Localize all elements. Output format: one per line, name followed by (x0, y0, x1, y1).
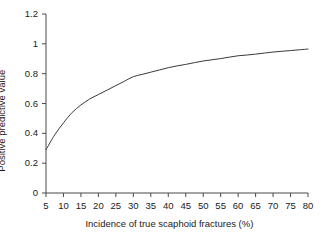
x-tick-label: 45 (180, 201, 191, 211)
axis-lines (46, 14, 308, 193)
x-tick-label: 35 (146, 201, 157, 211)
x-tick-label: 50 (198, 201, 209, 211)
x-tick-label: 80 (303, 201, 314, 211)
x-tick-label: 5 (43, 201, 48, 211)
ppv-curve (46, 49, 308, 150)
x-tick-label: 20 (93, 201, 104, 211)
x-tick-label: 60 (233, 201, 244, 211)
x-tick-label: 70 (268, 201, 279, 211)
y-tick-label: 1 (0, 39, 38, 49)
y-axis-ticks (42, 14, 46, 193)
x-axis-title: Incidence of true scaphoid fractures (%) (85, 219, 253, 229)
x-tick-label: 75 (285, 201, 296, 211)
x-tick-label: 15 (76, 201, 87, 211)
x-axis-ticks (46, 193, 308, 197)
x-tick-label: 65 (250, 201, 261, 211)
x-tick-label: 10 (58, 201, 69, 211)
plot-area (0, 0, 322, 232)
x-tick-label: 30 (128, 201, 139, 211)
y-tick-label: 1.2 (0, 9, 38, 19)
chart-figure: 00.20.40.60.811.2 5101520253035404550556… (0, 0, 322, 232)
x-tick-label: 40 (163, 201, 174, 211)
y-axis-title: Positive predictive value (0, 70, 7, 172)
x-tick-label: 25 (111, 201, 122, 211)
y-tick-label: 0 (0, 188, 38, 198)
x-tick-label: 55 (215, 201, 226, 211)
